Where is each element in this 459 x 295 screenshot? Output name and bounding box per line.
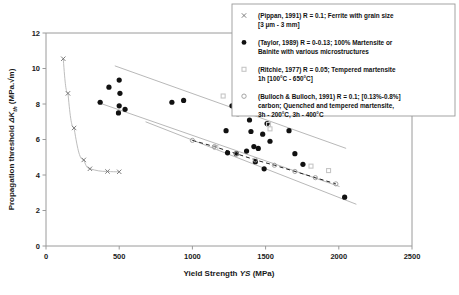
data-point — [106, 85, 111, 90]
x-axis-title: Yield Strength YS (MPa) — [184, 269, 275, 278]
data-point — [122, 107, 127, 112]
data-point — [262, 166, 267, 171]
y-tick-label: 6 — [36, 135, 40, 144]
data-point — [244, 148, 249, 153]
y-axis-title: Propagation threshold ΔKth (MPa.√m) — [7, 68, 18, 210]
legend-line: (Bulloch & Bulloch, 1991) R = 0.1; [0.13… — [258, 93, 401, 101]
y-axis-title-sub: th — [12, 106, 18, 112]
legend-line: (Taylor, 1989) R = 0-0.13; 100% Martensi… — [258, 39, 393, 47]
y-tick-label: 10 — [32, 64, 40, 73]
legend-line: 3h - 200°C, 3h - 400°C — [258, 111, 324, 119]
data-point — [286, 128, 291, 133]
legend-line: carbon; Quenched and tempered martensite… — [258, 102, 394, 110]
data-point — [117, 103, 122, 108]
data-point — [221, 94, 225, 98]
legend-marker-filled-circle-icon — [242, 40, 247, 45]
chart-svg: 02468101205001000150020002500 Yield Stre… — [0, 0, 459, 295]
legend-line: Bainite with various microstructures — [258, 48, 369, 55]
data-point — [82, 158, 86, 162]
data-point — [98, 100, 103, 105]
series-bulloch-bulloch-1991 — [190, 138, 338, 186]
data-point — [260, 132, 265, 137]
data-point — [225, 150, 230, 155]
data-point — [117, 77, 122, 82]
x-tick-label: 500 — [113, 252, 126, 261]
x-tick-label: 1500 — [257, 252, 274, 261]
x-tick-label: 2500 — [404, 252, 421, 261]
pippan-curve — [63, 59, 119, 172]
data-point — [292, 151, 297, 156]
x-tick-label: 1000 — [184, 252, 201, 261]
pippan-trend-curve — [63, 59, 119, 172]
data-point — [117, 91, 122, 96]
data-point — [181, 98, 186, 103]
data-point — [256, 146, 261, 151]
data-point — [116, 110, 121, 115]
legend[interactable]: (Pippan, 1991) R = 0.1; Ferrite with gra… — [232, 4, 455, 119]
y-tick-label: 12 — [32, 29, 40, 38]
data-point — [169, 100, 174, 105]
legend-line: [3 μm - 3 mm] — [258, 21, 300, 29]
y-tick-label: 2 — [36, 206, 40, 215]
data-point — [248, 129, 253, 134]
chart-container: 02468101205001000150020002500 Yield Stre… — [0, 0, 459, 295]
data-point — [300, 162, 305, 167]
data-point — [267, 139, 272, 144]
legend-line: (Pippan, 1991) R = 0.1; Ferrite with gra… — [258, 12, 394, 20]
x-tick-label: 2000 — [330, 252, 347, 261]
data-point — [342, 195, 347, 200]
y-tick-label: 0 — [36, 242, 40, 251]
data-point — [268, 127, 272, 131]
data-point — [247, 117, 252, 122]
y-tick-label: 8 — [36, 100, 40, 109]
y-tick-label: 4 — [36, 171, 41, 180]
data-point — [327, 169, 331, 173]
legend-line: (Ritchie, 1977) R = 0.05; Tempered marte… — [258, 66, 396, 74]
x-axis-title-italic: YS — [240, 269, 251, 278]
data-point — [309, 164, 313, 168]
data-point — [223, 128, 228, 133]
legend-line: 1h [100°C - 650°C] — [258, 75, 313, 83]
x-tick-label: 0 — [44, 252, 48, 261]
lower-band-line — [146, 122, 357, 205]
